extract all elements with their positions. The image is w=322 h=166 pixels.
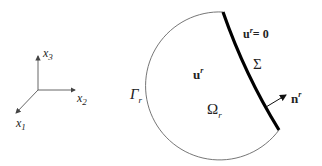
- interface-condition: ur= 0: [243, 26, 269, 41]
- boundary-label: Γr: [129, 86, 143, 105]
- x2-label: x2: [76, 91, 87, 107]
- region-label: Ωr: [207, 101, 222, 120]
- interface-label: Σ: [253, 56, 262, 72]
- field-label: ur: [193, 66, 204, 82]
- normal-label: nr: [291, 90, 302, 106]
- x3-label: x3: [42, 46, 53, 62]
- domain-diagram: x3 x2 x1 Γr ur Ωr Σ ur= 0 nr: [0, 0, 322, 166]
- x1-label: x1: [15, 116, 26, 132]
- coordinate-axes: x3 x2 x1: [15, 46, 87, 132]
- x1-axis: [16, 90, 38, 113]
- normal-vector-arrow: [266, 95, 286, 107]
